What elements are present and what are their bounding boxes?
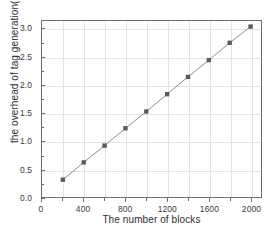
y-tick-mark-minor [41,184,44,185]
x-axis-title: The number of blocks [41,214,262,225]
data-point-marker [165,92,169,96]
data-point-marker [82,160,86,164]
x-tick-mark-minor [62,198,63,201]
y-tick-mark-minor [41,127,44,128]
y-tick-label: 3.0 [20,23,32,33]
data-point-marker [207,58,211,62]
data-point-marker [123,126,127,130]
x-axis-ticks: 0400800120016002000 [41,198,262,203]
x-tick-mark [251,198,252,202]
y-axis-ticks [41,20,46,198]
y-tick-mark-minor [41,156,44,157]
x-tick-mark [209,198,210,202]
x-tick-label: 1200 [158,204,177,214]
y-tick-mark [41,170,45,171]
y-tick-label: 1.0 [20,136,32,146]
y-tick-label: 2.5 [20,52,32,62]
data-point-marker [186,75,190,79]
x-tick-label: 400 [76,204,90,214]
y-tick-mark [41,85,45,86]
x-tick-mark [125,198,126,202]
y-tick-mark [41,198,45,199]
x-tick-label: 2000 [242,204,261,214]
data-series-line [42,21,261,197]
chart-figure: 0400800120016002000 0.00.51.01.52.02.53.… [0,0,278,237]
x-tick-mark-minor [104,198,105,201]
x-tick-label: 1600 [200,204,219,214]
x-tick-mark-minor [230,198,231,201]
data-point-marker [102,143,106,147]
data-point-marker [144,109,148,113]
y-tick-mark [41,141,45,142]
x-tick-label: 800 [118,204,132,214]
data-point-marker [228,41,232,45]
y-tick-mark-minor [41,99,44,100]
y-tick-label: 0.0 [20,193,32,203]
y-tick-label: 2.0 [20,80,32,90]
y-tick-mark [41,57,45,58]
y-tick-label: 0.5 [20,165,32,175]
x-tick-mark [167,198,168,202]
data-point-marker [61,178,65,182]
x-tick-label: 0 [39,204,44,214]
plot-area [41,20,262,198]
x-tick-mark-minor [146,198,147,201]
y-tick-mark-minor [41,43,44,44]
y-tick-label: 1.5 [20,108,32,118]
y-tick-mark [41,28,45,29]
x-tick-mark-minor [188,198,189,201]
data-point-marker [248,24,252,28]
series-polyline [63,27,251,180]
y-tick-mark-minor [41,71,44,72]
y-tick-mark [41,113,45,114]
y-axis-title: the overhead of tag generation(s) [9,0,20,158]
x-tick-mark [83,198,84,202]
